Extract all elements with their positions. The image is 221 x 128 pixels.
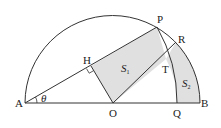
label-o: O [109, 107, 117, 119]
label-q: Q [173, 107, 181, 119]
label-a: A [15, 97, 23, 109]
angle-arc-theta [36, 97, 38, 103]
label-t: T [162, 63, 169, 75]
label-h: H [83, 54, 91, 66]
label-theta: θ [41, 92, 47, 104]
geometry-diagram: A O B P R H T Q θ S1 S2 [0, 0, 221, 128]
label-p: P [157, 13, 163, 25]
label-r: R [178, 33, 186, 45]
label-b: B [201, 97, 208, 109]
region-s1 [91, 27, 166, 103]
